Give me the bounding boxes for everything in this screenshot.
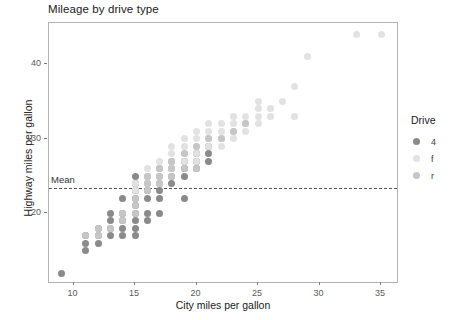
x-tick-label: 25 bbox=[252, 288, 262, 298]
legend-item-4[interactable]: 4 bbox=[408, 133, 466, 150]
y-tick-mark bbox=[44, 138, 47, 139]
data-point bbox=[193, 135, 200, 142]
data-point bbox=[168, 180, 175, 187]
data-point bbox=[119, 217, 126, 224]
data-point bbox=[242, 128, 249, 135]
data-point bbox=[132, 210, 139, 217]
data-point bbox=[156, 165, 163, 172]
data-point bbox=[107, 232, 114, 239]
legend-title: Drive bbox=[408, 114, 466, 126]
legend-key bbox=[408, 167, 425, 184]
data-point bbox=[205, 158, 212, 165]
data-point bbox=[168, 150, 175, 157]
data-point bbox=[193, 128, 200, 135]
x-tick-mark bbox=[380, 282, 381, 285]
data-point bbox=[156, 173, 163, 180]
legend-item-f[interactable]: f bbox=[408, 150, 466, 167]
y-tick-label: 40 bbox=[31, 58, 41, 68]
x-axis-title: City miles per gallon bbox=[48, 299, 398, 311]
data-point bbox=[144, 187, 151, 194]
legend-label: 4 bbox=[431, 137, 436, 147]
data-point bbox=[267, 105, 274, 112]
legend-swatch-dot-icon bbox=[413, 138, 420, 145]
data-point bbox=[132, 195, 139, 202]
data-point bbox=[181, 173, 188, 180]
data-point bbox=[132, 180, 139, 187]
data-point bbox=[353, 31, 360, 38]
data-point bbox=[181, 195, 188, 202]
data-point bbox=[168, 143, 175, 150]
y-tick-mark bbox=[44, 212, 47, 213]
data-point bbox=[205, 143, 212, 150]
data-point bbox=[193, 150, 200, 157]
page-title: Mileage by drive type bbox=[48, 3, 159, 15]
data-point bbox=[95, 240, 102, 247]
x-tick-label: 10 bbox=[68, 288, 78, 298]
data-point bbox=[255, 113, 262, 120]
data-point bbox=[82, 240, 89, 247]
data-point bbox=[82, 247, 89, 254]
data-point bbox=[144, 180, 151, 187]
data-point bbox=[132, 225, 139, 232]
mean-annotation-label: Mean bbox=[51, 174, 75, 185]
legend: Drive 4fr bbox=[408, 114, 466, 184]
data-point bbox=[132, 173, 139, 180]
data-point bbox=[181, 135, 188, 142]
x-tick-label: 35 bbox=[375, 288, 385, 298]
data-point bbox=[119, 225, 126, 232]
data-point bbox=[132, 217, 139, 224]
x-tick-label: 20 bbox=[191, 288, 201, 298]
data-point bbox=[304, 53, 311, 60]
legend-swatch-dot-icon bbox=[413, 172, 420, 179]
data-point bbox=[132, 232, 139, 239]
data-point bbox=[168, 165, 175, 172]
data-point bbox=[255, 105, 262, 112]
data-point bbox=[230, 120, 237, 127]
data-point bbox=[230, 135, 237, 142]
data-point bbox=[218, 120, 225, 127]
x-tick-mark bbox=[134, 282, 135, 285]
data-point bbox=[242, 113, 249, 120]
legend-key bbox=[408, 133, 425, 150]
data-point bbox=[156, 180, 163, 187]
data-point bbox=[168, 158, 175, 165]
x-tick-mark bbox=[196, 282, 197, 285]
data-point bbox=[95, 225, 102, 232]
data-point bbox=[193, 158, 200, 165]
data-point bbox=[193, 165, 200, 172]
data-point bbox=[119, 232, 126, 239]
data-point bbox=[119, 210, 126, 217]
data-point bbox=[291, 83, 298, 90]
data-point bbox=[181, 165, 188, 172]
data-point bbox=[218, 135, 225, 142]
data-point bbox=[144, 217, 151, 224]
data-point bbox=[242, 120, 249, 127]
data-point bbox=[267, 113, 274, 120]
y-axis-title: Highway miles per gallon bbox=[22, 73, 34, 243]
legend-entries: 4fr bbox=[408, 133, 466, 184]
data-point bbox=[156, 210, 163, 217]
data-point bbox=[230, 113, 237, 120]
data-point bbox=[218, 143, 225, 150]
data-point bbox=[95, 232, 102, 239]
y-tick-mark bbox=[44, 63, 47, 64]
data-point bbox=[181, 143, 188, 150]
x-tick-label: 30 bbox=[314, 288, 324, 298]
data-point bbox=[255, 120, 262, 127]
data-point bbox=[279, 98, 286, 105]
legend-label: r bbox=[431, 171, 434, 181]
data-point bbox=[156, 158, 163, 165]
data-point bbox=[144, 210, 151, 217]
data-point bbox=[132, 187, 139, 194]
data-point bbox=[119, 195, 126, 202]
data-point bbox=[193, 143, 200, 150]
data-point bbox=[144, 165, 151, 172]
mean-reference-line bbox=[49, 188, 397, 189]
data-point bbox=[168, 173, 175, 180]
legend-key bbox=[408, 150, 425, 167]
legend-swatch-dot-icon bbox=[413, 155, 420, 162]
x-tick-mark bbox=[73, 282, 74, 285]
plot-panel: Mean bbox=[48, 22, 398, 283]
data-point bbox=[205, 150, 212, 157]
legend-item-r[interactable]: r bbox=[408, 167, 466, 184]
